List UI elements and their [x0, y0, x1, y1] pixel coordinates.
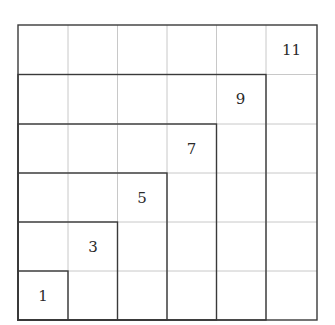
label-7: 7 [187, 140, 197, 158]
label-1: 1 [38, 287, 48, 305]
label-9: 9 [236, 90, 246, 108]
nested-squares-diagram: 1 3 5 7 9 11 [0, 0, 335, 325]
label-11: 11 [282, 41, 301, 59]
label-5: 5 [137, 189, 147, 207]
label-3: 3 [88, 238, 98, 256]
